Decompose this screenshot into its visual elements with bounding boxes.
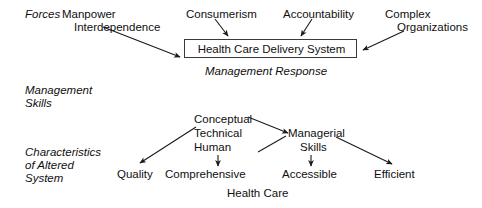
- health-care-delivery-system-box: Health Care Delivery System: [184, 39, 357, 58]
- force-label-complex: Complex: [385, 8, 430, 22]
- connector-conceptual-to-managerial: [248, 117, 288, 133]
- managerial-skills-label-line2: Skills: [300, 141, 327, 155]
- skill-label-human: Human: [194, 141, 231, 155]
- force-label-interdependence: Interdependence: [74, 21, 160, 35]
- row-label-characteristics-line1: Characteristics: [25, 146, 101, 160]
- row-label-characteristics-line2: of Altered: [25, 159, 74, 173]
- managerial-skills-label-line1: Managerial: [288, 127, 345, 141]
- force-label-manpower: Manpower: [62, 8, 116, 22]
- management-response-label: Management Response: [205, 65, 327, 79]
- outcome-label-accessible: Accessible: [282, 168, 337, 182]
- skill-label-technical: Technical: [194, 127, 242, 141]
- row-label-characteristics-line3: System: [25, 172, 63, 186]
- outcome-footer-health-care: Health Care: [227, 187, 288, 201]
- row-label-management-skills-line2: Skills: [25, 97, 52, 111]
- row-label-forces: Forces: [25, 8, 60, 22]
- force-label-consumerism: Consumerism: [186, 8, 257, 22]
- arrow-accountability-to-box: [301, 19, 312, 36]
- force-label-organizations: Organizations: [397, 21, 468, 35]
- diagram-canvas: Forces Management Skills Characteristics…: [0, 0, 482, 208]
- arrow-consumerism-to-box: [215, 19, 228, 36]
- arrow-skills-to-quality: [140, 127, 196, 163]
- row-label-management-skills-line1: Management: [25, 84, 92, 98]
- outcome-label-comprehensive: Comprehensive: [165, 168, 246, 182]
- outcome-label-efficient: Efficient: [374, 168, 415, 182]
- outcome-label-quality: Quality: [117, 168, 153, 182]
- arrow-managerial-to-efficient: [336, 137, 392, 164]
- connector-human-to-managerial: [258, 136, 286, 152]
- health-care-delivery-system-label: Health Care Delivery System: [185, 40, 358, 59]
- force-label-accountability: Accountability: [283, 8, 354, 22]
- skill-label-conceptual: Conceptual: [194, 113, 252, 127]
